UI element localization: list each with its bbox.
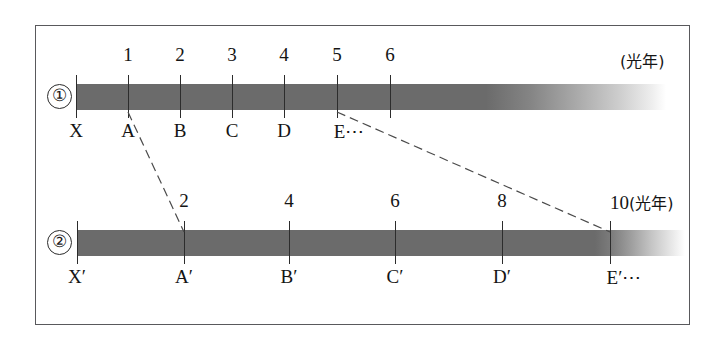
- tick-row2-Dprime: [502, 221, 503, 264]
- tick-row1-B: [180, 75, 181, 118]
- scale-bar-2: [77, 230, 685, 256]
- scale-number-row2-10: 10: [610, 192, 629, 213]
- tick-row2-Xprime: [77, 221, 78, 264]
- point-label-E: E⋯: [334, 120, 365, 143]
- scale-number-row1-5: 5: [332, 44, 342, 66]
- scale-number-row1-4: 4: [279, 44, 289, 66]
- diagram-canvas: ① 1 2 3 4 5 6 X A B C D E⋯ (光年) ② 2 4 6 …: [0, 0, 723, 348]
- point-label-Xprime: X′: [68, 266, 86, 288]
- tick-row2-Bprime: [289, 221, 290, 264]
- point-label-Aprime: A′: [175, 266, 193, 288]
- scale-number-row2-6: 6: [390, 190, 400, 212]
- point-label-D: D: [277, 120, 291, 142]
- point-label-Bprime: B′: [281, 266, 298, 288]
- diagram-frame: [35, 25, 690, 325]
- scale-bar-1: [76, 84, 666, 110]
- scale-number-row1-6: 6: [385, 44, 395, 66]
- point-label-A: A: [121, 120, 135, 142]
- scale-number-row2-8: 8: [497, 190, 507, 212]
- point-label-X: X: [69, 120, 83, 142]
- row-index-marker-2: ②: [47, 230, 72, 255]
- scale-number-row1-3: 3: [227, 44, 237, 66]
- tick-row1-6: [390, 75, 391, 118]
- point-label-B: B: [174, 120, 187, 142]
- row-index-marker-1: ①: [47, 84, 72, 109]
- tick-row1-D: [284, 75, 285, 118]
- tick-row1-X: [76, 75, 77, 118]
- tick-row2-Eprime: [610, 221, 611, 264]
- tick-row1-A: [128, 75, 129, 118]
- tick-row1-E: [337, 75, 338, 118]
- point-label-Dprime: D′: [493, 266, 511, 288]
- point-label-Cprime: C′: [387, 266, 404, 288]
- scale-number-row2-4: 4: [284, 190, 294, 212]
- tick-row2-Aprime: [184, 221, 185, 264]
- tick-row1-C: [232, 75, 233, 118]
- point-label-Eprime: E′⋯: [607, 266, 642, 289]
- unit-label-row2: (光年): [629, 194, 673, 213]
- scale-number-row2-10-with-unit: 10(光年): [610, 190, 673, 214]
- scale-number-row1-1: 1: [123, 44, 133, 66]
- point-label-C: C: [226, 120, 239, 142]
- unit-label-row1: (光年): [620, 48, 664, 72]
- tick-row2-Cprime: [395, 221, 396, 264]
- scale-number-row1-2: 2: [175, 44, 185, 66]
- scale-number-row2-2: 2: [179, 190, 189, 212]
